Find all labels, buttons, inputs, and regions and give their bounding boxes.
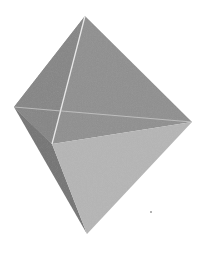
octahedron-scene — [0, 0, 212, 255]
octahedron-graphic — [0, 0, 212, 255]
speck — [150, 211, 152, 213]
